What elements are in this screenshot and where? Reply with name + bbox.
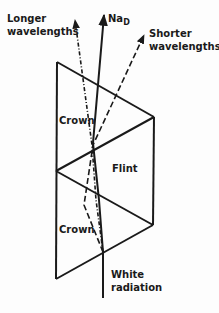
- na-d-ray: [93, 15, 104, 252]
- na-label-main: Na: [108, 13, 123, 24]
- shorter-label-line1: Shorter: [149, 27, 219, 40]
- prism-right-edge: [153, 117, 154, 225]
- shorter-wavelength-ray: [84, 35, 144, 252]
- crown-bottom-label: Crown: [59, 223, 95, 236]
- na-d-label: NaD: [108, 12, 130, 29]
- na-label-subscript: D: [123, 18, 130, 27]
- direct-vision-prism-diagram: Longer wavelengths NaD Shorter wavelengt…: [0, 0, 219, 313]
- white-label-line1: White: [111, 268, 162, 281]
- prism-assembly: [56, 62, 154, 279]
- shorter-wavelengths-label: Shorter wavelengths: [149, 27, 219, 53]
- flint-label: Flint: [112, 162, 138, 175]
- longer-label-line1: Longer: [7, 12, 79, 25]
- rays: [75, 15, 144, 298]
- longer-label-line2: wavelengths: [7, 25, 79, 38]
- white-radiation-label: White radiation: [111, 268, 162, 294]
- crown-flint-interface-lower: [56, 171, 153, 225]
- shorter-label-line2: wavelengths: [149, 40, 219, 53]
- longer-wavelengths-label: Longer wavelengths: [7, 12, 79, 38]
- crown-top-label: Crown: [59, 114, 95, 127]
- top-crown-top-face: [57, 62, 154, 117]
- white-label-line2: radiation: [111, 281, 162, 294]
